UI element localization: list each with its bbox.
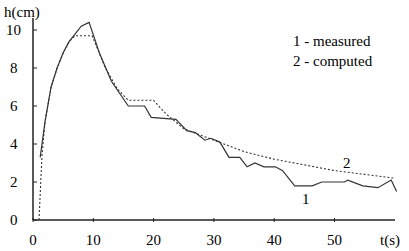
- computed-curve-label: 2: [343, 155, 351, 171]
- x-tick-label: 20: [146, 232, 161, 248]
- y-axis-title: h(cm): [4, 4, 40, 21]
- x-tick-label: 40: [267, 232, 282, 248]
- x-tick-label: 10: [86, 232, 101, 248]
- y-tick-label: 0: [10, 212, 18, 228]
- y-tick-label: 8: [10, 60, 18, 76]
- y-tick-label: 4: [10, 136, 18, 152]
- measured-curve-label: 1: [302, 191, 310, 207]
- x-tick-label: 0: [29, 232, 37, 248]
- legend-item-computed: 2 - computed: [293, 53, 373, 69]
- y-tick-label: 6: [10, 98, 18, 114]
- y-tick-label: 2: [10, 174, 18, 190]
- x-tick-label: 50: [327, 232, 342, 248]
- x-tick-label: 30: [206, 232, 221, 248]
- y-tick-label: 10: [6, 22, 21, 38]
- line-chart: 0246810 01020304050 h(cm) t(s) 2 1 1 - m…: [0, 0, 409, 251]
- x-ticks: 01020304050: [29, 218, 342, 248]
- legend-item-measured: 1 - measured: [293, 33, 371, 49]
- x-axis-title: t(s): [380, 232, 400, 249]
- legend: 1 - measured 2 - computed: [293, 33, 373, 69]
